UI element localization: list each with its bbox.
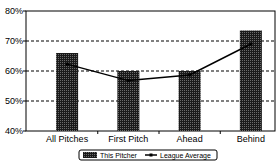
line-marker <box>66 63 69 66</box>
y-axis: 40%50%60%70%80% <box>5 6 26 136</box>
y-tick-label: 60% <box>5 66 23 76</box>
chart: 40%50%60%70%80% All PitchesFirst PitchAh… <box>0 0 280 168</box>
x-tick-label: Ahead <box>177 134 203 144</box>
legend-label-this-pitcher: This Pitcher <box>100 152 138 159</box>
x-tick-label: All Pitches <box>46 134 89 144</box>
line-marker <box>188 73 191 76</box>
legend: This Pitcher League Average <box>79 150 217 160</box>
x-axis: All PitchesFirst PitchAheadBehind <box>46 131 265 144</box>
y-tick-label: 80% <box>5 6 23 16</box>
y-tick-label: 40% <box>5 126 23 136</box>
y-tick-label: 50% <box>5 96 23 106</box>
bar <box>240 31 262 132</box>
line-marker <box>249 43 252 46</box>
legend-line-marker <box>150 154 153 157</box>
legend-label-league-average: League Average <box>160 152 211 160</box>
legend-bar-swatch <box>83 152 97 158</box>
bar <box>179 71 201 131</box>
x-tick-label: Behind <box>237 134 265 144</box>
y-tick-label: 70% <box>5 36 23 46</box>
x-tick-label: First Pitch <box>108 134 148 144</box>
line-marker <box>127 79 130 82</box>
